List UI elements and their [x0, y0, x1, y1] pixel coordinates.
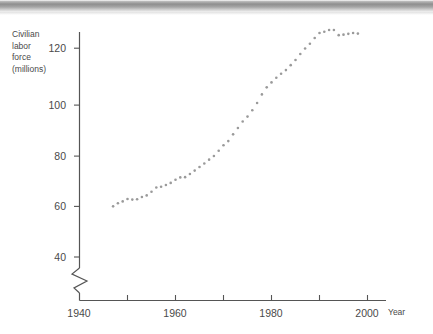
data-point	[246, 115, 249, 118]
data-point	[289, 64, 292, 67]
data-point	[304, 47, 307, 50]
data-point	[165, 184, 168, 187]
data-point	[309, 42, 312, 45]
data-point	[222, 144, 225, 147]
data-point	[237, 127, 240, 130]
data-point	[155, 186, 158, 189]
data-point	[333, 29, 336, 32]
data-point	[121, 200, 124, 203]
data-point	[357, 32, 360, 35]
data-point	[285, 69, 288, 72]
data-point	[256, 102, 259, 105]
data-point	[213, 155, 216, 158]
data-point	[261, 93, 264, 96]
data-point	[189, 173, 192, 176]
data-point	[318, 32, 321, 35]
data-point	[141, 196, 144, 199]
data-point	[208, 158, 211, 161]
data-point	[352, 32, 355, 35]
chart-figure: Civilian labor force (millions) Year 120…	[0, 0, 433, 334]
data-point	[342, 33, 345, 36]
data-point	[270, 81, 273, 84]
data-point	[347, 33, 350, 36]
data-point	[126, 198, 129, 201]
data-point	[169, 182, 172, 185]
data-point-series	[112, 29, 359, 208]
y-axis-break-zigzag	[72, 268, 87, 293]
data-point	[294, 59, 297, 62]
data-point	[328, 29, 331, 32]
data-point	[193, 169, 196, 172]
data-point	[241, 120, 244, 123]
data-point	[145, 194, 148, 197]
data-point	[313, 37, 316, 40]
data-point	[337, 34, 340, 37]
plot-area	[0, 0, 433, 334]
data-point	[323, 30, 326, 33]
data-point	[174, 178, 177, 181]
data-point	[232, 133, 235, 136]
data-point	[184, 176, 187, 179]
data-point	[131, 198, 134, 201]
data-point	[198, 166, 201, 169]
data-point	[227, 140, 230, 143]
data-point	[265, 86, 268, 89]
data-point	[299, 53, 302, 56]
data-point	[280, 72, 283, 75]
data-point	[160, 185, 163, 188]
data-point	[251, 109, 254, 112]
data-point	[179, 176, 182, 179]
data-point	[150, 190, 153, 193]
data-point	[203, 162, 206, 165]
data-point	[117, 202, 120, 205]
data-point	[112, 205, 115, 208]
data-point	[136, 198, 139, 201]
data-point	[275, 76, 278, 79]
data-point	[217, 149, 220, 152]
